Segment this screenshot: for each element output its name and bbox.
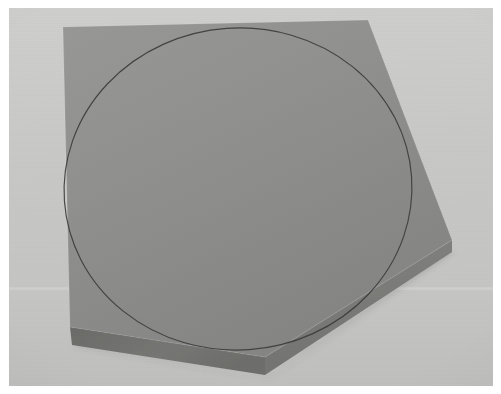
slab-and-circle-artwork [9, 8, 493, 386]
photo-image-area: Photograph of a pentagonal gray slab wit… [9, 8, 493, 386]
photo-white-border: Photograph of a pentagonal gray slab wit… [0, 0, 501, 394]
photo-scene: Photograph of a pentagonal gray slab wit… [0, 0, 501, 394]
